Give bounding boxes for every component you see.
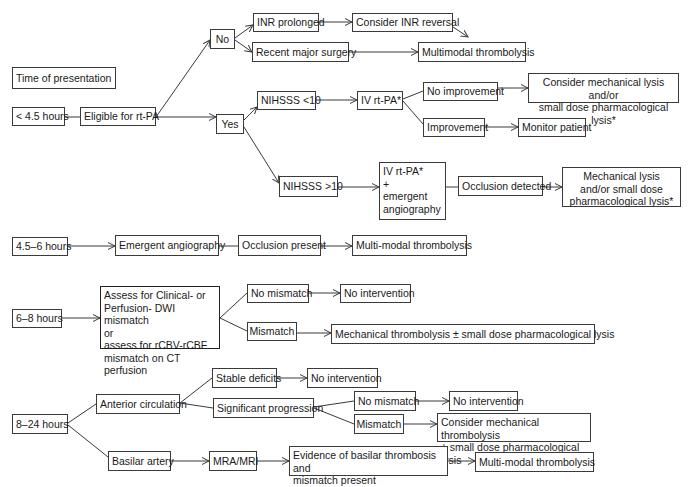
mra-mri-box: MRA/MRI — [209, 451, 257, 471]
no-mismatch-box-1: No mismatch — [247, 284, 309, 303]
inr-prolonged-box: INR prolonged — [253, 13, 319, 32]
improvement-box: Improvement — [423, 118, 485, 137]
no-mismatch-box-2: No mismatch — [354, 391, 416, 411]
connector-eligible-to-no — [156, 40, 210, 117]
iv-rtpa-box: IV rt-PA* — [357, 91, 403, 110]
connector-ivrtpa_1-to-no_improvement — [403, 91, 423, 99]
mismatch-box-1: Mismatch — [247, 322, 297, 341]
nihsss-under-10-box: NIHSSS <10 — [257, 91, 316, 110]
recent-major-surgery-box: Recent major surgery — [252, 42, 349, 62]
emergent-angiography-box: Emergent angiography — [115, 235, 219, 256]
eligible-rtpa-box: Eligible for rt-PA — [80, 107, 156, 126]
occlusion-present-box: Occlusion present — [238, 235, 321, 256]
evidence-basilar-thrombosis-box: Evidence of basilar thrombosis and misma… — [289, 446, 448, 476]
connector-yes-to-nihsss_gt10 — [244, 127, 279, 183]
multimodal-thrombolysis-box-2: Multi-modal thrombolysis — [352, 235, 467, 256]
6-to-8-hours-box: 6–8 hours — [12, 309, 62, 328]
stable-deficits-box: Stable deficits — [212, 368, 277, 388]
connector-ivrtpa_1-to-improvement — [403, 101, 423, 124]
4-5-to-6-hours-box: 4.5–6 hours — [12, 237, 68, 256]
consider-mechanical-thrombolysis-box: Consider mechanical thrombolysis ± small… — [437, 413, 591, 442]
no-intervention-box-1: No intervention — [340, 284, 411, 303]
mechanical-thrombolysis-box: Mechanical thrombolysis ± small dose pha… — [331, 324, 595, 344]
anterior-circulation-box: Anterior circulation — [96, 394, 180, 414]
nihsss-over-10-box: NIHSSS >10 — [279, 176, 338, 197]
connector-h8_24-to-anterior — [68, 404, 96, 423]
occlusion-detected-box: Occlusion detected — [458, 176, 543, 196]
yes-box: Yes — [216, 114, 244, 134]
time-of-presentation-label: Time of presentation — [12, 67, 116, 89]
iv-rtpa-emergent-angiography-box: IV rt-PA* + emergent angiography — [379, 162, 446, 220]
under-4-5-hours-box: < 4.5 hours — [12, 107, 65, 126]
connector-assess-to-mismatch_1 — [220, 318, 247, 331]
connector-no-to-recent_surgery — [235, 40, 252, 52]
connector-yes-to-nihsss_lt10 — [244, 107, 257, 120]
mismatch-box-2: Mismatch — [354, 414, 404, 434]
connector-assess-to-no_mismatch_1 — [220, 293, 247, 318]
8-to-24-hours-box: 8–24 hours — [12, 414, 68, 434]
connector-no-to-inr_prolonged — [235, 25, 253, 38]
consider-mechanical-lysis-box: Consider mechanical lysis and/or small d… — [528, 73, 679, 103]
no-box: No — [210, 29, 235, 49]
assess-mismatch-box: Assess for Clinical- or Perfusion- DWI m… — [100, 286, 220, 349]
multimodal-thrombolysis-box-1: Multimodal thrombolysis — [418, 42, 526, 62]
no-intervention-box-2: No intervention — [307, 368, 378, 388]
consider-inr-reversal-box: Consider INR reversal — [352, 13, 453, 32]
mechanical-lysis-box: Mechanical lysis and/or small dose pharm… — [562, 167, 681, 207]
flowchart-canvas: Time of presentation < 4.5 hours Eligibl… — [0, 0, 694, 487]
significant-progression-box: Significant progression — [213, 398, 314, 418]
basilar-artery-box: Basilar artery — [108, 451, 171, 471]
no-improvement-box: No improvement — [423, 82, 498, 101]
no-intervention-box-3: No intervention — [449, 391, 518, 411]
connector-h8_24-to-basilar — [68, 425, 108, 457]
multimodal-thrombolysis-box-3: Multi-modal thrombolysis — [475, 452, 594, 472]
monitor-patient-box: Monitor patient — [518, 118, 586, 137]
